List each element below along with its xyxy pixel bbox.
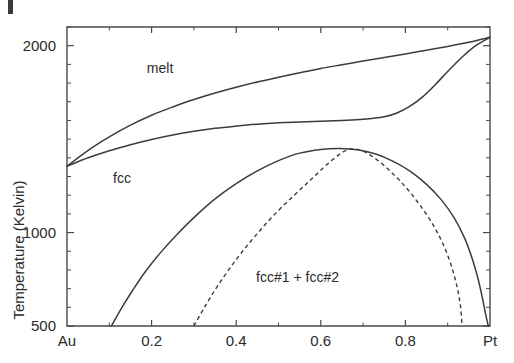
curve-liquidus bbox=[67, 37, 490, 166]
curve-solidus bbox=[67, 37, 490, 166]
x-axis-tick-labels: Au0.20.40.60.8Pt bbox=[58, 332, 498, 349]
corner-artifact-mark bbox=[8, 0, 13, 14]
phase-region-labels: meltfccfcc#1 + fcc#2 bbox=[113, 60, 339, 285]
x-tick-label: Au bbox=[58, 332, 76, 349]
x-tick-label: 0.8 bbox=[395, 332, 416, 349]
region-label: fcc bbox=[113, 170, 131, 186]
x-tick-label: 0.2 bbox=[141, 332, 162, 349]
x-tick-label: 0.6 bbox=[310, 332, 331, 349]
region-label: fcc#1 + fcc#2 bbox=[256, 269, 339, 285]
y-tick-label: 2000 bbox=[23, 37, 56, 54]
curve-spinodal bbox=[194, 149, 462, 326]
y-tick-label: 500 bbox=[31, 317, 56, 334]
curve-binodal-miscibility-gap bbox=[111, 148, 488, 326]
x-tick-label: Pt bbox=[483, 332, 498, 349]
phase-diagram-figure: 50010002000 Au0.20.40.60.8Pt meltfccfcc#… bbox=[0, 0, 514, 363]
y-axis-tick-labels: 50010002000 bbox=[23, 37, 56, 334]
y-axis-title: Temperature (Kelvin) bbox=[10, 180, 27, 319]
region-label: melt bbox=[147, 60, 174, 76]
y-tick-label: 1000 bbox=[23, 224, 56, 241]
phase-diagram-plot: 50010002000 Au0.20.40.60.8Pt meltfccfcc#… bbox=[0, 0, 514, 363]
y-axis-minor-ticks bbox=[67, 27, 490, 307]
x-tick-label: 0.4 bbox=[226, 332, 247, 349]
